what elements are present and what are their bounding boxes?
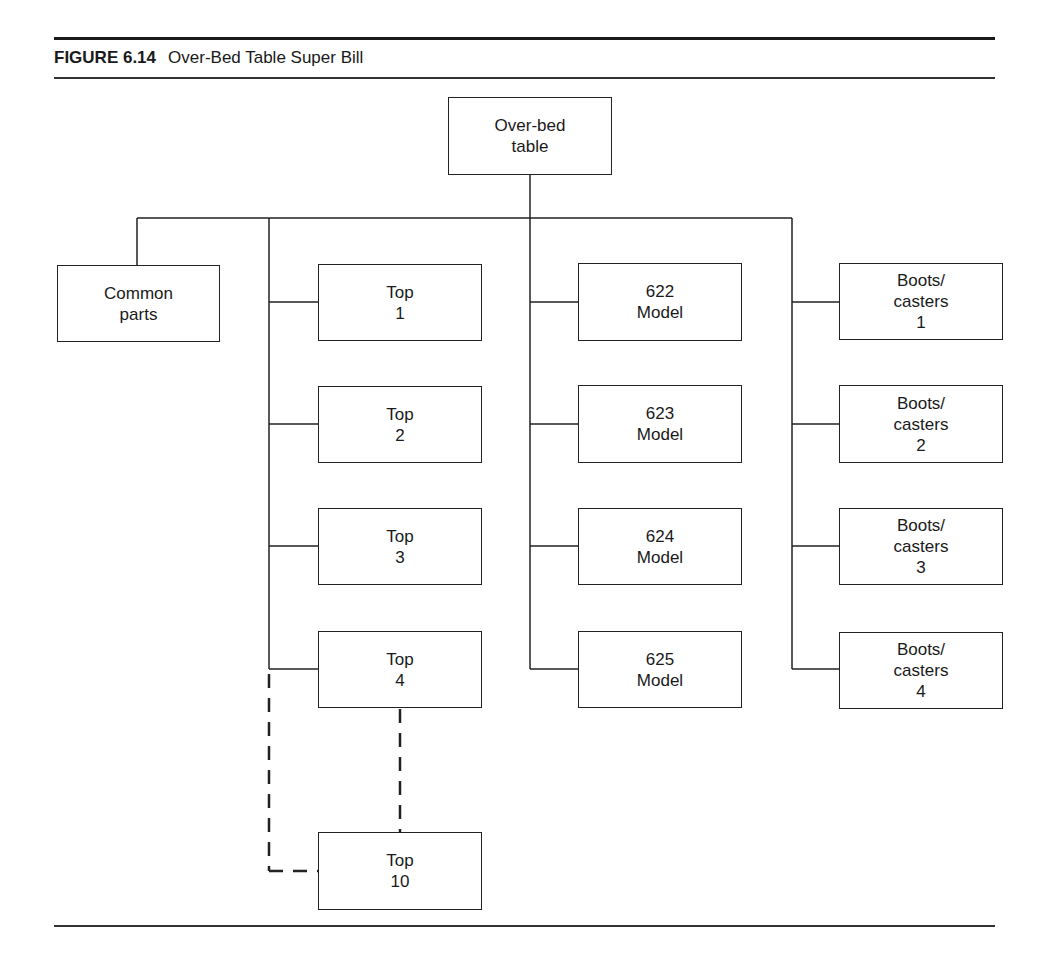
node-top-3: Top 3	[318, 508, 482, 585]
bottom-rule	[54, 925, 995, 927]
node-common-parts: Common parts	[57, 265, 220, 342]
node-top-10: Top 10	[318, 832, 482, 910]
node-623-model: 623 Model	[578, 385, 742, 463]
node-622-model: 622 Model	[578, 263, 742, 341]
node-boots-casters-2: Boots/ casters 2	[839, 385, 1003, 463]
node-625-model: 625 Model	[578, 631, 742, 708]
node-624-model: 624 Model	[578, 508, 742, 585]
node-over-bed-table: Over-bed table	[448, 97, 612, 175]
node-boots-casters-1: Boots/ casters 1	[839, 263, 1003, 340]
node-top-1: Top 1	[318, 264, 482, 341]
node-top-2: Top 2	[318, 386, 482, 463]
node-boots-casters-4: Boots/ casters 4	[839, 632, 1003, 709]
bom-tree-diagram: Over-bed table Common parts Top 1 Top 2 …	[0, 0, 1046, 969]
node-top-4: Top 4	[318, 631, 482, 708]
node-boots-casters-3: Boots/ casters 3	[839, 508, 1003, 585]
